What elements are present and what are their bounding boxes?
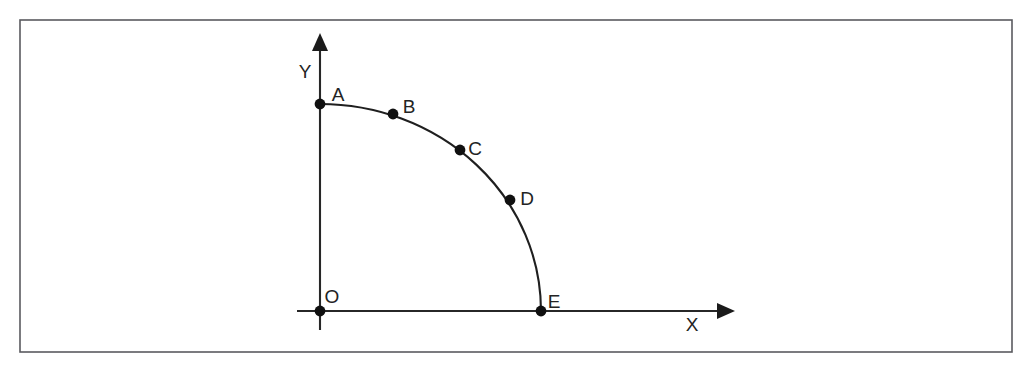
y-axis-label: Y (299, 61, 312, 82)
point-label-e: E (548, 291, 561, 312)
x-axis-arrowhead (717, 303, 735, 319)
diagram-canvas: A B C D E O Y X (0, 0, 1032, 369)
quarter-ellipse-arc (320, 104, 541, 311)
origin-label: O (325, 286, 340, 307)
data-point-e (536, 306, 547, 317)
x-axis-label: X (686, 314, 699, 335)
data-point-d (505, 195, 516, 206)
data-point-c (455, 145, 466, 156)
point-label-c: C (468, 138, 482, 159)
point-label-d: D (520, 188, 534, 209)
data-point-a (315, 99, 326, 110)
figure-container: A B C D E O Y X (0, 0, 1032, 369)
y-axis-arrowhead (312, 33, 328, 51)
outer-border (20, 20, 1012, 352)
origin-point (315, 306, 326, 317)
point-label-b: B (403, 96, 416, 117)
point-label-a: A (332, 84, 345, 105)
data-point-b (388, 109, 399, 120)
